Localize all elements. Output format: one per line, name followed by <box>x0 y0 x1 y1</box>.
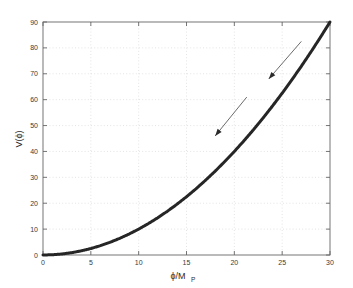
figure-canvas: 051015202530 0102030405060708090 ϕ/M P V… <box>0 0 353 288</box>
x-tick-label: 30 <box>326 259 334 266</box>
y-tick-label: 10 <box>30 226 38 233</box>
y-axis-title: V(ϕ) <box>14 130 24 147</box>
x-tick-label: 5 <box>89 259 93 266</box>
y-tick-label: 60 <box>30 96 38 103</box>
y-tick-label: 70 <box>30 70 38 77</box>
chart-plot: 051015202530 0102030405060708090 ϕ/M P V… <box>0 0 353 288</box>
y-tick-label: 0 <box>34 252 38 259</box>
y-tick-label: 90 <box>30 19 38 26</box>
x-axis-title-subscript: P <box>191 276 195 283</box>
x-tick-label: 0 <box>41 259 45 266</box>
x-tick-label: 20 <box>230 259 238 266</box>
y-tick-label: 20 <box>30 200 38 207</box>
x-tick-label: 10 <box>135 259 143 266</box>
x-tick-label: 25 <box>278 259 286 266</box>
y-tick-label: 40 <box>30 148 38 155</box>
y-tick-label: 30 <box>30 174 38 181</box>
x-tick-label: 15 <box>183 259 191 266</box>
y-tick-label: 50 <box>30 122 38 129</box>
x-axis-title: ϕ/M <box>170 271 185 281</box>
y-tick-label: 80 <box>30 44 38 51</box>
